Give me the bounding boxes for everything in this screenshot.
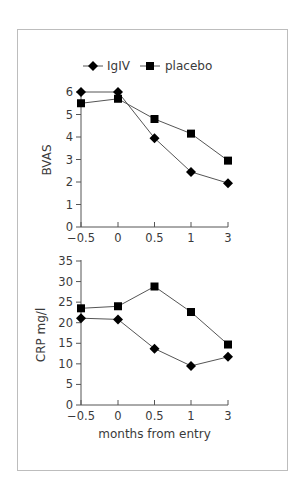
- y-tick-label: 2: [66, 175, 73, 189]
- square-marker-icon: [77, 99, 85, 107]
- x-tick-label: 0: [114, 231, 121, 245]
- y-tick-label: 1: [66, 198, 73, 212]
- square-marker-icon: [151, 115, 159, 123]
- legend-label-placebo: placebo: [165, 59, 212, 73]
- square-marker-icon: [187, 308, 195, 316]
- y-tick-label: 5: [66, 377, 73, 391]
- y-axis-label: BVAS: [40, 144, 54, 175]
- square-marker-icon: [77, 304, 85, 312]
- x-tick-label: −0.5: [67, 409, 95, 423]
- square-marker-icon: [224, 341, 232, 349]
- y-tick-label: 6: [66, 85, 73, 99]
- x-tick-label: −0.5: [67, 231, 95, 245]
- square-marker-icon: [187, 130, 195, 138]
- y-tick-label: 5: [66, 108, 73, 122]
- y-tick-label: 30: [58, 275, 73, 289]
- y-tick-label: 3: [66, 153, 73, 167]
- x-tick-label: 3: [224, 231, 231, 245]
- y-tick-label: 20: [58, 316, 73, 330]
- x-tick-label: 1: [187, 231, 194, 245]
- y-tick-label: 25: [58, 295, 73, 309]
- x-tick-label: 0: [114, 409, 121, 423]
- square-marker-icon: [151, 283, 159, 291]
- y-tick-label: 15: [58, 336, 73, 350]
- y-axis-label: CRP mg/l: [34, 308, 48, 362]
- legend-label-igiv: IgIV: [107, 59, 131, 73]
- square-marker-icon: [114, 302, 122, 310]
- figure: IgIV placebo 0123456−0.500.513BVAS 05101…: [0, 0, 305, 493]
- square-marker-icon: [114, 95, 122, 103]
- figure-frame: [18, 30, 288, 471]
- y-tick-label: 35: [58, 254, 73, 268]
- y-tick-label: 10: [58, 357, 73, 371]
- square-marker-icon: [146, 62, 154, 70]
- x-tick-label: 1: [187, 409, 194, 423]
- x-tick-label: 3: [224, 409, 231, 423]
- x-tick-label: 0.5: [145, 409, 163, 423]
- y-tick-label: 4: [66, 130, 73, 144]
- x-tick-label: 0.5: [145, 231, 163, 245]
- square-marker-icon: [224, 157, 232, 165]
- x-axis-label: months from entry: [98, 427, 210, 441]
